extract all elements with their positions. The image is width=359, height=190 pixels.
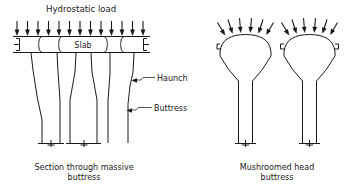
right-diagram-group: [217, 18, 339, 147]
hydrostatic-load-arrows-left: [15, 21, 146, 36]
mushroom-head-left: [217, 35, 271, 148]
buttress-right: [108, 53, 134, 144]
left-caption-line1: Section through massive: [34, 163, 133, 172]
hydrostatic-load-title: Hydrostatic load: [46, 4, 116, 14]
buttress-middle: [66, 53, 101, 148]
slab-label: Slab: [74, 41, 91, 50]
haunch-label: Haunch: [157, 74, 188, 83]
left-caption-line2: buttress: [68, 173, 101, 182]
haunch-callout: [132, 78, 156, 83]
figure-root: Hydrostatic load Slab Haunch Buttress Se…: [0, 0, 359, 190]
buttress-label: Buttress: [154, 104, 187, 113]
buttress-left: [31, 53, 64, 148]
hydrostatic-load-arrows-right-head1: [218, 18, 274, 36]
hydrostatic-load-arrows-right-head2: [282, 18, 338, 36]
right-caption-line2: buttress: [261, 173, 294, 182]
right-caption-line1: Mushroomed head: [240, 163, 314, 172]
buttress-dam-diagram: Hydrostatic load Slab Haunch Buttress Se…: [0, 0, 359, 190]
buttress-callout: [127, 108, 153, 113]
mushroom-head-right: [281, 35, 339, 148]
